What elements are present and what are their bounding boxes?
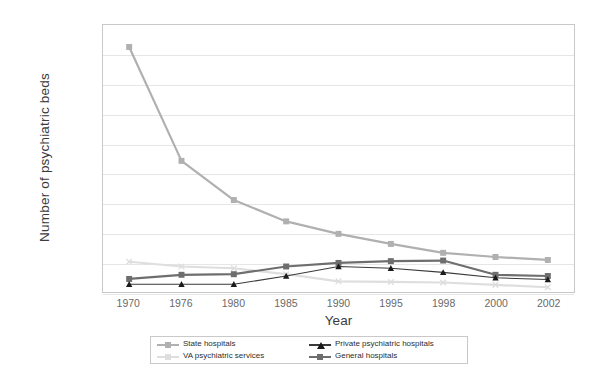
legend-item-state-hospitals[interactable]: State hospitals [157, 339, 307, 349]
gridline [103, 294, 574, 295]
data-point [388, 258, 394, 264]
data-point [545, 257, 551, 263]
legend-swatch-icon [157, 352, 179, 361]
legend-swatch-icon [309, 340, 331, 349]
data-point [179, 272, 185, 278]
data-point [283, 218, 289, 224]
series-line [129, 47, 548, 260]
data-point [126, 276, 132, 282]
chart-figure: Number of psychiatric beds 050,000100,00… [0, 0, 605, 381]
data-point [493, 254, 499, 260]
legend-item-general-hospitals[interactable]: General hospitals [309, 351, 469, 361]
legend-label: General hospitals [335, 351, 397, 361]
series-general-hospitals [126, 258, 551, 282]
legend-item-private-psychiatric-hospitals[interactable]: Private psychiatric hospitals [309, 339, 469, 349]
x-tick-label: 1976 [151, 297, 211, 309]
legend-label: Private psychiatric hospitals [335, 339, 434, 349]
data-point [231, 197, 237, 203]
data-point [179, 158, 185, 164]
x-tick-label: 1970 [98, 297, 158, 309]
legend-item-va-psychiatric-services[interactable]: VA psychiatric services [157, 351, 307, 361]
series-state-hospitals [126, 44, 551, 263]
legend-swatch-icon [309, 352, 331, 361]
plot-area [102, 24, 575, 293]
x-axis-title: Year [102, 313, 575, 328]
data-point [231, 271, 237, 277]
x-tick-label: 2002 [519, 297, 579, 309]
data-point [336, 231, 342, 237]
legend-label: State hospitals [183, 339, 235, 349]
x-tick-label: 2000 [466, 297, 526, 309]
x-tick-label: 1980 [203, 297, 263, 309]
y-axis-title: Number of psychiatric beds [37, 28, 52, 288]
data-point [388, 241, 394, 247]
x-tick-label: 1995 [361, 297, 421, 309]
legend-label: VA psychiatric services [183, 351, 264, 361]
legend-swatch-icon [157, 340, 179, 349]
x-tick-label: 1998 [414, 297, 474, 309]
x-tick-label: 1985 [256, 297, 316, 309]
data-point [283, 264, 289, 270]
data-point [126, 44, 132, 50]
data-lines [103, 25, 574, 292]
x-tick-label: 1990 [309, 297, 369, 309]
chart-legend: State hospitalsPrivate psychiatric hospi… [150, 336, 468, 364]
data-point [440, 250, 446, 256]
data-point [440, 258, 446, 264]
